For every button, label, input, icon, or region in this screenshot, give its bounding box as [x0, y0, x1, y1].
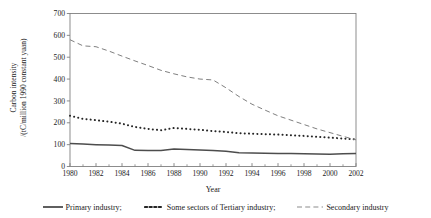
x-tick-label: 1990: [192, 169, 207, 178]
y-tick-label: 500: [54, 53, 66, 62]
chart-figure: Carbon intensity /(tC/million 1990 const…: [0, 0, 431, 218]
dashed-line-icon: [297, 203, 323, 211]
legend-item-secondary-industry[interactable]: Secondary industry: [297, 203, 388, 212]
series-line-2: [70, 40, 356, 140]
legend-label-secondary-industry: Secondary industry: [326, 203, 388, 212]
series-line-0: [70, 144, 356, 155]
y-tick-label: 600: [54, 31, 66, 40]
x-tick-label: 1994: [244, 169, 259, 178]
x-tick-label: 1996: [270, 169, 285, 178]
legend-item-primary-industry[interactable]: Primary industry;: [43, 203, 122, 212]
y-tick-label: 700: [54, 9, 66, 18]
x-tick-label: 1986: [140, 169, 155, 178]
x-tick-label: 2000: [322, 169, 337, 178]
chart-legend: Primary industry; Some sectors of Tertia…: [0, 198, 431, 216]
x-tick-label: 1988: [166, 169, 181, 178]
axis-frame: [70, 14, 356, 167]
y-tick-label: 200: [54, 118, 66, 127]
plot-area: 0100200300400500600700 19801982198419861…: [0, 0, 431, 198]
data-series-layer: [70, 40, 356, 155]
x-axis-title: Year: [206, 185, 221, 194]
y-tick-label: 100: [54, 140, 66, 149]
x-tick-label: 1998: [296, 169, 311, 178]
solid-line-icon: [43, 203, 63, 211]
legend-label-primary-industry: Primary industry;: [66, 203, 122, 212]
dotted-line-icon: [144, 203, 164, 211]
y-tick-label: 400: [54, 75, 66, 84]
x-tick-label: 1980: [62, 169, 77, 178]
x-tick-label: 1992: [218, 169, 233, 178]
y-tick-label: 300: [54, 97, 66, 106]
x-tick-label: 2002: [348, 169, 363, 178]
x-tick-label: 1982: [88, 169, 103, 178]
x-axis-ticks: 1980198219841986198819901992199419961998…: [62, 163, 363, 178]
y-axis-ticks: 0100200300400500600700: [54, 9, 70, 171]
x-tick-label: 1984: [114, 169, 129, 178]
legend-label-tertiary-industry: Some sectors of Tertiary industry;: [167, 203, 276, 212]
legend-item-tertiary-industry[interactable]: Some sectors of Tertiary industry;: [144, 203, 276, 212]
